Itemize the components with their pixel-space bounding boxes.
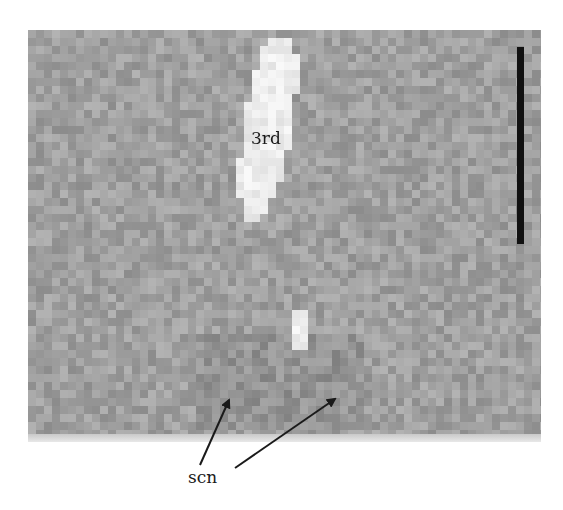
annotation-arrows: [0, 0, 563, 510]
scn-arrow-left: [200, 400, 229, 465]
scn-arrow-right: [235, 399, 335, 468]
figure: 3rd scn: [0, 0, 563, 510]
